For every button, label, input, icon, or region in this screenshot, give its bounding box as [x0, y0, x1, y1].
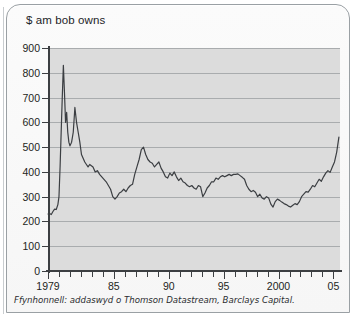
x-axis-tick [125, 272, 126, 277]
y-axis-label: 100 [4, 241, 40, 251]
x-axis-tick [300, 272, 301, 277]
x-axis-tick [311, 272, 312, 277]
x-axis-tick [202, 272, 203, 277]
x-axis-tick [81, 272, 82, 277]
x-axis-tick [257, 272, 258, 277]
x-axis-tick [246, 272, 247, 277]
chart-title: $ am bob owns [26, 14, 105, 26]
x-axis-tick [213, 272, 214, 277]
y-axis-label: 300 [4, 192, 40, 202]
y-axis-line [48, 46, 50, 273]
x-axis-label: 2000 [267, 280, 290, 292]
y-axis-label: 700 [4, 93, 40, 103]
x-axis-tick [103, 272, 104, 277]
y-axis-label: 200 [4, 216, 40, 226]
series-path-dollars-per-ounce [48, 65, 339, 214]
x-axis-label: 05 [328, 280, 340, 292]
x-axis-tick [136, 272, 137, 277]
y-axis-tick [42, 73, 49, 74]
y-axis-tick [42, 172, 49, 173]
x-axis-label: 90 [163, 280, 175, 292]
y-axis-label: 900 [4, 43, 40, 53]
x-axis-tick [169, 272, 170, 279]
y-axis-tick [42, 48, 49, 49]
series-line-chart [48, 48, 340, 271]
x-axis-label: 1979 [36, 280, 59, 292]
x-axis-tick [59, 272, 60, 277]
chart-page: $ am bob owns 01002003004005006007008009… [0, 0, 353, 317]
x-axis-label: 95 [218, 280, 230, 292]
x-axis-tick [147, 272, 148, 277]
x-axis-tick [92, 272, 93, 277]
x-axis-tick [322, 272, 323, 277]
x-axis-tick [224, 272, 225, 279]
y-axis-label: 800 [4, 68, 40, 78]
y-axis-label: 0 [4, 266, 40, 276]
y-axis-label: 600 [4, 117, 40, 127]
x-axis-label: 85 [108, 280, 120, 292]
x-axis-line [46, 270, 342, 272]
x-axis-tick [70, 272, 71, 277]
x-axis-tick [333, 272, 334, 279]
y-axis-tick [42, 122, 49, 123]
x-axis-tick [191, 272, 192, 277]
x-axis-tick [114, 272, 115, 279]
y-axis-tick [42, 147, 49, 148]
x-axis-tick [48, 272, 49, 279]
x-axis-tick [180, 272, 181, 277]
y-axis-tick [42, 98, 49, 99]
x-axis-tick [158, 272, 159, 277]
y-axis-tick [42, 221, 49, 222]
y-axis-tick [42, 246, 49, 247]
x-axis-tick [235, 272, 236, 277]
x-axis-tick [268, 272, 269, 277]
plot-area [48, 48, 340, 271]
y-axis-label: 500 [4, 142, 40, 152]
y-axis-label: 400 [4, 167, 40, 177]
y-axis-tick [42, 197, 49, 198]
x-axis-tick [290, 272, 291, 277]
source-note: Ffynhonnell: addaswyd o Thomson Datastre… [14, 295, 295, 305]
x-axis-tick [279, 272, 280, 279]
